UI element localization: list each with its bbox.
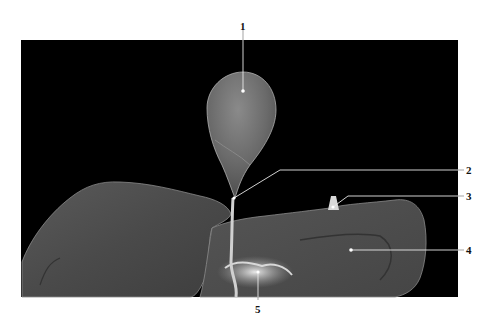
dot-3 [331,205,334,208]
label-4: 4 [466,245,472,256]
label-2: 2 [466,165,472,176]
dot-2 [232,196,235,199]
label-5: 5 [255,304,261,315]
dot-5 [256,270,259,273]
dot-1 [241,89,245,93]
label-1: 1 [240,21,246,32]
anatomy-figure [0,0,491,327]
label-3: 3 [466,191,472,202]
porta-hepatis [217,256,293,288]
dot-4 [349,248,353,252]
